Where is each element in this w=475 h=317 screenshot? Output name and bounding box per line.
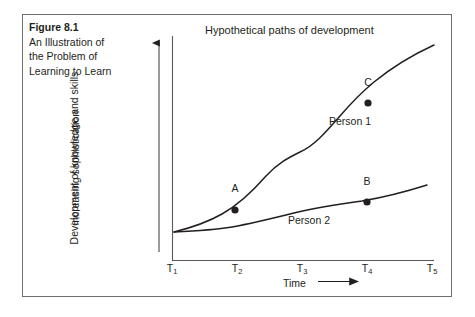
figure-caption-line-2: the Problem of — [29, 49, 134, 64]
figure-caption: Figure 8.1 An Illustration of the Proble… — [29, 20, 134, 78]
x-tick-t5: T5 — [427, 262, 438, 274]
x-axis-label: Time — [283, 277, 306, 289]
chart-title: Hypothetical paths of development — [205, 24, 374, 36]
figure-caption-title: Figure 8.1 — [29, 20, 134, 35]
series-label-person-1: Person 1 — [329, 115, 371, 127]
x-tick-t1: T1 — [167, 262, 178, 274]
x-tick-t2: T2 — [232, 262, 243, 274]
figure-container: Figure 8.1 An Illustration of the Proble… — [0, 0, 475, 317]
data-point-label-a: A — [231, 182, 238, 194]
data-point-label-c: C — [364, 76, 372, 88]
x-tick-t4: T4 — [362, 262, 373, 274]
figure-caption-line-3: Learning to Learn — [29, 64, 134, 79]
y-axis-label-secondary: increasing sophistication — [69, 88, 81, 248]
x-tick-t3: T3 — [297, 262, 308, 274]
series-label-person-2: Person 2 — [288, 214, 330, 226]
figure-caption-line-1: An Illustration of — [29, 35, 134, 50]
data-point-label-b: B — [363, 175, 370, 187]
